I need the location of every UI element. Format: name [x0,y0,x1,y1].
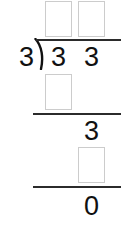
dividend-digit-ones: 3 [78,44,105,71]
long-division-worksheet: 3 3 3 3 0 [0,0,123,232]
partial-product-box-2[interactable] [78,147,105,183]
quotient-box-tens[interactable] [45,1,72,37]
division-vinculum [36,39,121,41]
final-remainder-digit: 0 [78,193,105,220]
divisor-digit: 3 [10,44,34,71]
partial-product-box-1[interactable] [45,74,72,110]
subtraction-rule-2 [33,186,121,188]
bring-down-digit: 3 [78,118,105,145]
quotient-box-ones[interactable] [78,1,105,37]
subtraction-rule-1 [33,113,121,115]
dividend-digit-tens: 3 [45,44,72,71]
